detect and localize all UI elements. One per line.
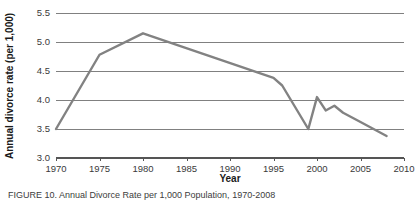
x-tick-label: 2010 (393, 163, 414, 174)
gridlines-group (56, 14, 404, 130)
x-tick-label: 1985 (176, 163, 197, 174)
y-tick-label: 4.5 (37, 65, 50, 76)
x-tick-label: 1975 (89, 163, 110, 174)
y-tick-label: 4.0 (37, 94, 50, 105)
y-axis-title: Annual divorce rate (per 1,000) (4, 13, 15, 159)
figure-container: 3.03.54.04.55.05.5 197019751980198519901… (0, 0, 415, 201)
y-tick-label: 5.5 (37, 7, 50, 18)
x-tick-label: 2005 (350, 163, 371, 174)
x-tick-label: 1980 (132, 163, 153, 174)
divorce-rate-line-chart: 3.03.54.04.55.05.5 197019751980198519901… (0, 0, 415, 201)
y-tick-label: 3.0 (37, 152, 50, 163)
x-tick-label: 1995 (263, 163, 284, 174)
y-tick-label: 3.5 (37, 123, 50, 134)
x-axis-title: Year (219, 173, 240, 184)
x-tick-label: 2000 (306, 163, 327, 174)
y-axis-tick-labels: 3.03.54.04.55.05.5 (37, 7, 50, 163)
x-tick-label: 1970 (45, 163, 66, 174)
y-tick-label: 5.0 (37, 36, 50, 47)
divorce-rate-series-line (56, 33, 387, 136)
